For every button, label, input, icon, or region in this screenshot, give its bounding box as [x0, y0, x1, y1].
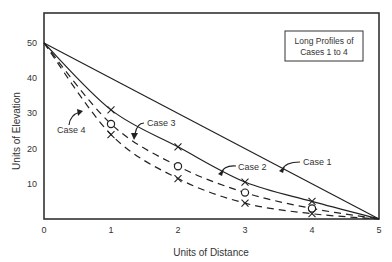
y-axis-label: Units of Elevation: [11, 92, 22, 170]
chart-title-line-2: Cases 1 to 4: [300, 47, 348, 57]
callout-arrow-icon: [135, 123, 144, 134]
case-4-label: Case 4: [57, 125, 86, 135]
long-profiles-chart: 012345 1020304050 Units of Distance Unit…: [0, 0, 392, 262]
chart-title-line-1: Long Profiles of: [294, 36, 354, 46]
x-tick-label: 5: [376, 225, 381, 235]
series-lines: [44, 43, 379, 219]
x-tick-label: 4: [309, 225, 314, 235]
x-marker-icon: [242, 200, 249, 207]
annotation-case-4: Case 4: [57, 109, 86, 135]
arrow-head-icon: [131, 133, 138, 140]
x-tick-label: 2: [175, 225, 180, 235]
y-tick-label: 20: [27, 144, 37, 154]
annotation-case-3: Case 3: [131, 118, 176, 140]
y-tick-label: 40: [27, 73, 37, 83]
circle-marker-icon: [174, 163, 181, 170]
x-tick-label: 1: [108, 225, 113, 235]
y-tick-label: 10: [27, 179, 37, 189]
circle-marker-icon: [241, 189, 248, 196]
x-marker-icon: [108, 131, 115, 138]
y-tick-label: 30: [27, 108, 37, 118]
y-tick-label: 50: [27, 38, 37, 48]
x-tick-label: 0: [41, 225, 46, 235]
x-axis-label: Units of Distance: [173, 247, 249, 258]
arrow-head-icon: [77, 109, 83, 116]
x-marker-icon: [175, 143, 182, 150]
case-1-label: Case 1: [303, 157, 332, 167]
circle-marker-icon: [107, 120, 114, 127]
series-markers: [107, 106, 315, 217]
y-axis-tick-labels: 1020304050: [27, 38, 37, 189]
x-axis-tick-labels: 012345: [41, 225, 381, 235]
x-tick-label: 3: [242, 225, 247, 235]
x-marker-icon: [175, 175, 182, 182]
x-marker-icon: [309, 198, 316, 205]
x-marker-icon: [242, 179, 249, 186]
annotation-case-2: Case 2: [218, 162, 267, 176]
case-2-label: Case 2: [238, 162, 267, 172]
x-marker-icon: [108, 106, 115, 113]
case-3-label: Case 3: [147, 118, 176, 128]
